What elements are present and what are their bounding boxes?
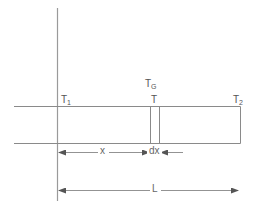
label-t2: T2 (233, 95, 243, 105)
label-tg: TG (145, 79, 157, 89)
label-t2-sub: 2 (239, 99, 243, 106)
dimension-label-L: L (150, 184, 160, 194)
label-t1: T1 (61, 95, 71, 105)
label-t1-sub: 1 (67, 99, 71, 106)
label-t-base: T (151, 94, 157, 105)
label-tg-sub: G (151, 83, 156, 90)
label-t: T (151, 95, 157, 105)
dimension-label-x: x (98, 146, 107, 156)
dimension-label-dx: dx (147, 146, 162, 156)
heat-conduction-diagram (0, 0, 256, 211)
